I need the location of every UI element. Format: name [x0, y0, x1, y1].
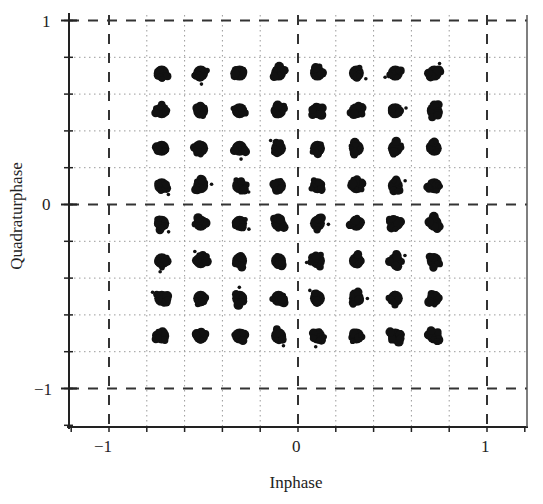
constellation-point: [388, 176, 407, 196]
constellation-point: [424, 290, 442, 307]
y-axis-label: Quadraturphase: [7, 162, 26, 270]
constellation-point: [386, 291, 403, 309]
reference-dashed-lines: [69, 15, 527, 427]
constellation-point: [386, 215, 405, 232]
constellation-point: [349, 65, 368, 82]
constellation-point: [231, 103, 249, 118]
constellation-point: [191, 66, 210, 86]
constellation-point: [383, 66, 404, 81]
y-tick-label-neg1: −1: [34, 380, 52, 399]
constellation-point: [388, 103, 408, 118]
constellation-point: [270, 62, 289, 81]
constellation-point: [349, 138, 364, 159]
x-axis-label: Inphase: [270, 473, 323, 492]
x-tick-label-neg1: −1: [94, 437, 112, 456]
constellation-point: [269, 178, 286, 195]
constellation-point: [308, 103, 327, 120]
constellation-point: [346, 215, 365, 231]
constellation-point: [231, 328, 249, 345]
constellation-point: [388, 137, 405, 158]
constellation-point: [190, 140, 208, 157]
constellation-point: [269, 139, 286, 158]
constellation-point: [385, 327, 404, 346]
constellation-point: [192, 250, 212, 269]
constellation-point: [154, 178, 171, 196]
constellation-point: [305, 252, 325, 271]
constellation-point: [271, 325, 287, 347]
constellation-point: [385, 250, 407, 271]
constellation-point: [347, 102, 367, 119]
constellation-point: [309, 328, 327, 348]
constellation-point: [348, 328, 365, 344]
y-tick-label-1: 1: [42, 12, 51, 31]
constellation-point: [423, 178, 443, 193]
constellation-point: [424, 212, 443, 233]
constellation-point: [154, 253, 171, 273]
constellation-point: [152, 141, 169, 156]
constellation-point: [424, 62, 444, 82]
constellation-point: [154, 216, 170, 235]
constellation-point: [347, 175, 366, 193]
constellation-point: [427, 100, 443, 121]
constellation-point: [192, 102, 208, 119]
constellation-point: [232, 286, 247, 310]
constellation-point: [232, 216, 251, 232]
constellation-point: [308, 289, 325, 307]
constellation-point: [151, 101, 170, 118]
constellation-point: [271, 100, 288, 118]
constellation-point: [192, 213, 211, 231]
constellation-point: [232, 252, 247, 271]
constellation-point: [426, 253, 443, 272]
constellation-point: [310, 63, 327, 81]
constellation-point: [269, 291, 288, 307]
constellation-point: [424, 326, 443, 345]
constellation-point: [154, 66, 172, 82]
constellation-point: [152, 327, 170, 344]
x-tick-label-0: 0: [292, 437, 301, 456]
constellation-point: [232, 177, 250, 194]
constellation-point: [310, 213, 330, 233]
constellation-point: [193, 291, 209, 308]
constellation-point: [310, 141, 325, 158]
constellation-point: [230, 66, 247, 81]
constellation-point: [349, 288, 369, 308]
constellation-point: [191, 175, 213, 194]
x-tick-label-1: 1: [481, 437, 490, 456]
constellation-point: [426, 137, 442, 155]
y-tick-label-0: 0: [42, 195, 51, 214]
constellation-point: [270, 213, 288, 232]
constellation-point: [192, 328, 210, 344]
constellation-point: [349, 250, 365, 268]
constellation-chart: 1 0 −1 −1 0 1 Inphase Quadraturphase: [0, 0, 543, 504]
constellation-point: [271, 253, 287, 270]
constellation-point: [230, 141, 250, 161]
constellation-point: [309, 177, 326, 194]
constellation-point: [151, 290, 172, 306]
axis-ticks: [61, 21, 525, 433]
